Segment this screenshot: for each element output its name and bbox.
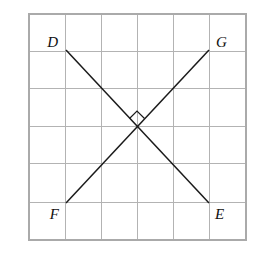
vertex-label-e: E <box>214 206 224 222</box>
figure-canvas: D G F E <box>0 0 272 277</box>
vertex-label-g: G <box>216 34 227 50</box>
geometry-figure: D G F E <box>0 0 272 277</box>
vertex-label-d: D <box>46 34 58 50</box>
vertex-label-f: F <box>49 206 60 222</box>
